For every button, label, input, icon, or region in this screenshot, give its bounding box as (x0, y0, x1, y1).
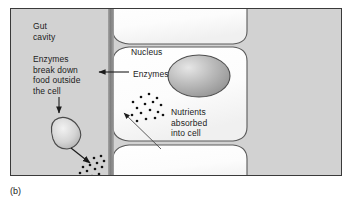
label-enzymes: Enzymes (133, 69, 169, 80)
label-enzymes-break-down: Enzymes break down food outside the cell (33, 54, 81, 96)
epithelial-cell-top (113, 9, 247, 44)
diagram-frame: Gut cavity Enzymes break down food outsi… (10, 8, 342, 176)
label-nutrients-absorbed-into-cell: Nutrients absorbed into cell (171, 107, 207, 139)
epithelial-cell-bottom (113, 145, 247, 175)
label-nucleus: Nucleus (131, 47, 162, 58)
nucleus-ellipse (168, 55, 230, 97)
figure-root: Gut cavity Enzymes break down food outsi… (0, 0, 352, 210)
figure-caption: (b) (10, 186, 21, 196)
label-gut-cavity: Gut cavity (33, 21, 55, 42)
brush-border-band (108, 9, 114, 175)
